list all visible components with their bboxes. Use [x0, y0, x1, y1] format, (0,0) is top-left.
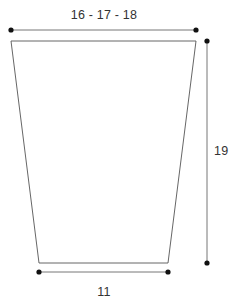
bottom-dimension-marker-right: [165, 269, 170, 274]
top-dimension-label: 16 - 17 - 18: [0, 9, 208, 22]
technical-drawing: [0, 0, 239, 307]
top-dimension-line-group: [8, 27, 198, 32]
bottom-dimension-marker-left: [36, 269, 41, 274]
right-dimension-marker-bottom: [204, 260, 209, 265]
right-dimension-line-group: [204, 38, 209, 265]
drawing-canvas: 16 - 17 - 18 19 11: [0, 0, 239, 307]
right-dimension-marker-top: [204, 38, 209, 43]
bottom-dimension-line-group: [36, 269, 170, 274]
bottom-dimension-label: 11: [39, 286, 169, 299]
top-dimension-marker-right: [193, 27, 198, 32]
trapezoid-shape: [11, 41, 196, 263]
top-dimension-marker-left: [8, 27, 13, 32]
height-dimension-label: 19: [214, 145, 228, 158]
